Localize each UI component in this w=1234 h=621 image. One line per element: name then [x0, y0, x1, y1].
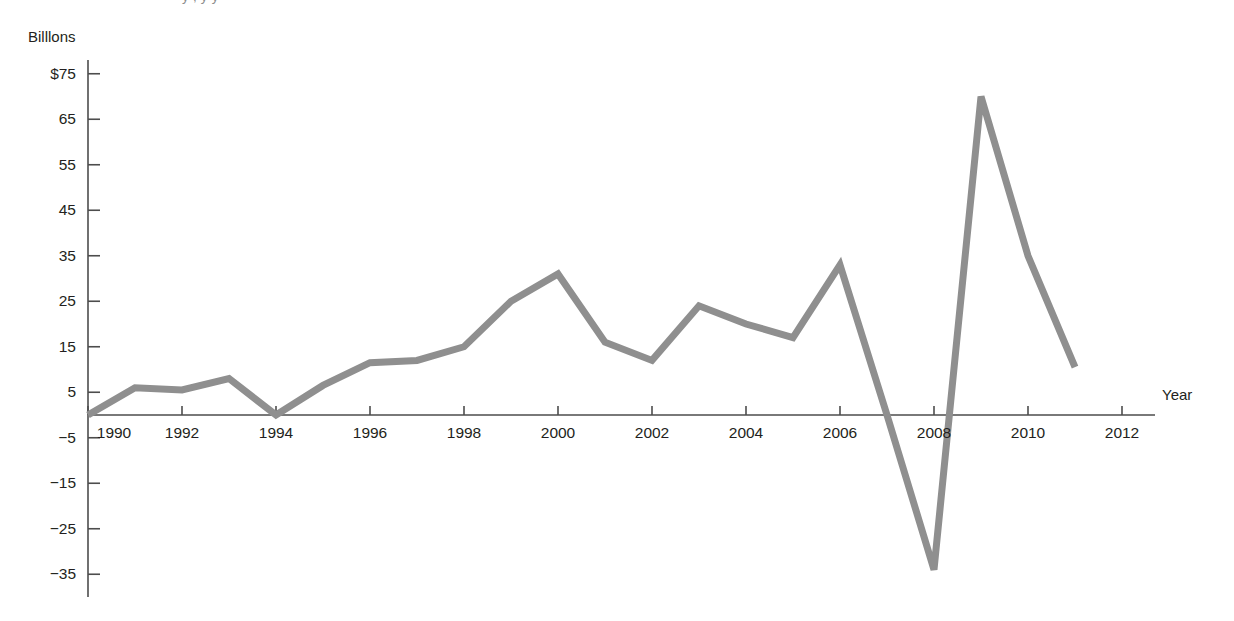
- y-axis-tick-label: −5: [0, 429, 76, 447]
- y-axis-tick-label: −35: [0, 565, 76, 583]
- y-axis-tick-label: $75: [0, 65, 76, 83]
- data-line: [88, 97, 1075, 570]
- x-axis-tick-label: 1990: [97, 424, 131, 442]
- y-axis-tick-label: 5: [0, 383, 76, 401]
- x-axis-tick-label: 1992: [165, 424, 199, 442]
- x-axis-tick-label: 2000: [541, 424, 575, 442]
- x-axis-tick-label: 1994: [259, 424, 293, 442]
- y-axis-tick-label: 45: [0, 201, 76, 219]
- x-axis-tick-label: 1998: [447, 424, 481, 442]
- x-axis-tick-label: 2008: [917, 424, 951, 442]
- y-axis-tick-label: 15: [0, 338, 76, 356]
- x-axis-tick-label: 2010: [1011, 424, 1045, 442]
- chart-figure: y , y y Billlons Year $756555453525155−5…: [0, 0, 1234, 621]
- y-axis-tick-label: 55: [0, 156, 76, 174]
- data-series-group: [88, 97, 1075, 570]
- x-axis-tick-label: 2002: [635, 424, 669, 442]
- x-axis-tick-label: 2006: [823, 424, 857, 442]
- x-axis-tick-label: 1996: [353, 424, 387, 442]
- x-axis-tick-label: 2004: [729, 424, 763, 442]
- line-chart-plot-area: [0, 0, 1234, 621]
- y-axis-tick-label: −25: [0, 520, 76, 538]
- y-axis-tick-label: −15: [0, 474, 76, 492]
- y-axis-tick-label: 35: [0, 247, 76, 265]
- y-axis-tick-label: 25: [0, 292, 76, 310]
- x-axis-tick-label: 2012: [1105, 424, 1139, 442]
- y-axis-tick-label: 65: [0, 110, 76, 128]
